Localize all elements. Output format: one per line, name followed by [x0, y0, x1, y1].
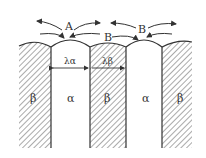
label-diffusion-a: A: [64, 20, 74, 33]
alpha-interface-left: [51, 40, 90, 47]
phase-label-beta-3: β: [177, 92, 183, 105]
label-lambda-beta: λβ: [102, 56, 113, 66]
phase-label-beta-1: β: [30, 92, 36, 105]
label-diffusion-b-top: B: [138, 23, 146, 36]
phase-label-alpha-1: α: [67, 92, 75, 105]
label-diffusion-b-middle: B: [104, 31, 112, 44]
phase-label-beta-2: β: [104, 92, 110, 105]
eutectic-lamellae-diagram: A B B λα λβ β α β α β: [0, 0, 206, 158]
label-lambda-alpha: λα: [64, 56, 76, 66]
alpha-interface-right: [126, 40, 162, 47]
phase-label-alpha-2: α: [142, 92, 150, 105]
